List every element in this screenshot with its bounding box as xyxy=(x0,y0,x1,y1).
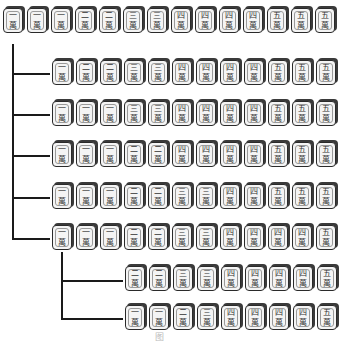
tile-suit: 萬 xyxy=(298,198,306,206)
tile-face: 四萬 xyxy=(220,101,240,126)
tile-face: 五萬 xyxy=(268,142,288,167)
tile-suit: 萬 xyxy=(251,280,259,288)
tile-face: 四萬 xyxy=(172,60,192,85)
tile-number: 五 xyxy=(274,188,282,196)
tile-number: 四 xyxy=(226,105,234,113)
tile-suit: 萬 xyxy=(129,22,137,30)
mahjong-tile: 三萬 xyxy=(148,58,169,85)
tile-suit: 萬 xyxy=(154,239,162,247)
mahjong-tile: 四萬 xyxy=(244,223,265,250)
mahjong-tile: 四萬 xyxy=(244,58,265,85)
tile-number: 五 xyxy=(274,64,282,72)
tile-number: 二 xyxy=(130,229,138,237)
tile-suit: 萬 xyxy=(297,22,305,30)
tile-row-sub-branch-1: 二萬二萬三萬三萬四萬四萬四萬四萬五萬 xyxy=(125,264,338,291)
tile-suit: 萬 xyxy=(178,198,186,206)
tile-number: 一 xyxy=(131,309,139,317)
tile-suit: 萬 xyxy=(105,22,113,30)
tile-face: 五萬 xyxy=(317,305,337,330)
tile-number: 二 xyxy=(105,12,113,20)
mahjong-tile: 五萬 xyxy=(292,58,313,85)
tile-face: 一萬 xyxy=(52,142,72,167)
mahjong-tile: 四萬 xyxy=(196,58,217,85)
tile-face: 五萬 xyxy=(268,60,288,85)
tile-number: 四 xyxy=(298,229,306,237)
mahjong-tile: 三萬 xyxy=(147,6,168,33)
tile-face: 五萬 xyxy=(267,8,287,33)
tile-suit: 萬 xyxy=(226,239,234,247)
tile-number: 四 xyxy=(275,309,283,317)
tile-number: 五 xyxy=(323,309,331,317)
tile-suit: 萬 xyxy=(275,280,283,288)
tile-suit: 萬 xyxy=(274,74,282,82)
mahjong-tile: 五萬 xyxy=(292,140,313,167)
tile-face: 二萬 xyxy=(76,60,96,85)
tile-face: 四萬 xyxy=(244,101,264,126)
mahjong-tile: 四萬 xyxy=(196,140,217,167)
mahjong-tile: 一萬 xyxy=(76,140,97,167)
tile-face: 四萬 xyxy=(220,225,240,250)
tile-face: 一萬 xyxy=(76,101,96,126)
tile-number: 五 xyxy=(298,188,306,196)
tile-number: 四 xyxy=(227,270,235,278)
tile-number: 五 xyxy=(322,105,330,113)
tile-face: 三萬 xyxy=(172,184,192,209)
tile-suit: 萬 xyxy=(299,319,307,327)
mahjong-tile: 五萬 xyxy=(268,58,289,85)
mahjong-tile: 二萬 xyxy=(124,223,145,250)
sub-branch-line-2 xyxy=(61,318,123,320)
tile-suit: 萬 xyxy=(82,156,90,164)
tile-number: 二 xyxy=(106,64,114,72)
tile-suit: 萬 xyxy=(322,198,330,206)
tile-suit: 萬 xyxy=(298,239,306,247)
mahjong-tile: 二萬 xyxy=(124,182,145,209)
tile-suit: 萬 xyxy=(202,239,210,247)
tile-number: 一 xyxy=(58,188,66,196)
tile-row-sub-branch-2: 一萬一萬二萬三萬四萬四萬四萬四萬五萬 xyxy=(125,303,338,330)
tile-face: 三萬 xyxy=(172,225,192,250)
tile-suit: 萬 xyxy=(202,74,210,82)
tile-suit: 萬 xyxy=(226,115,234,123)
tile-face: 一萬 xyxy=(27,8,47,33)
tile-suit: 萬 xyxy=(250,156,258,164)
mahjong-tile: 一萬 xyxy=(100,182,121,209)
mahjong-tile: 一萬 xyxy=(52,182,73,209)
tile-number: 三 xyxy=(179,270,187,278)
tile-suit: 萬 xyxy=(322,74,330,82)
tile-suit: 萬 xyxy=(153,22,161,30)
tile-number: 二 xyxy=(130,146,138,154)
tile-number: 三 xyxy=(129,12,137,20)
tile-number: 四 xyxy=(299,270,307,278)
tile-number: 三 xyxy=(154,64,162,72)
mahjong-tile: 二萬 xyxy=(173,303,194,330)
sub-branch-line-1 xyxy=(61,280,123,282)
tile-suit: 萬 xyxy=(298,115,306,123)
tile-face: 三萬 xyxy=(124,101,144,126)
tile-number: 二 xyxy=(155,270,163,278)
tile-number: 二 xyxy=(130,188,138,196)
mahjong-tile: 三萬 xyxy=(196,223,217,250)
tile-number: 三 xyxy=(203,270,211,278)
tile-number: 四 xyxy=(178,146,186,154)
tile-number: 二 xyxy=(81,12,89,20)
tile-face: 二萬 xyxy=(173,305,193,330)
tile-suit: 萬 xyxy=(227,319,235,327)
tile-face: 一萬 xyxy=(52,184,72,209)
tile-suit: 萬 xyxy=(106,74,114,82)
tile-face: 五萬 xyxy=(292,142,312,167)
tile-suit: 萬 xyxy=(58,239,66,247)
tile-number: 五 xyxy=(274,105,282,113)
tile-number: 五 xyxy=(323,270,331,278)
tile-number: 五 xyxy=(298,64,306,72)
mahjong-tile: 三萬 xyxy=(124,58,145,85)
tile-face: 五萬 xyxy=(316,101,336,126)
tile-number: 四 xyxy=(201,12,209,20)
mahjong-tile: 一萬 xyxy=(100,140,121,167)
tile-face: 五萬 xyxy=(292,60,312,85)
tile-suit: 萬 xyxy=(202,115,210,123)
tile-number: 四 xyxy=(225,12,233,20)
tile-face: 一萬 xyxy=(100,101,120,126)
tile-number: 二 xyxy=(131,270,139,278)
tile-suit: 萬 xyxy=(106,115,114,123)
tile-number: 三 xyxy=(202,229,210,237)
